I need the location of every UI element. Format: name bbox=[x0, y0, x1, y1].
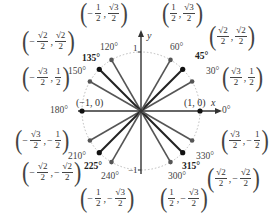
point-225-dot bbox=[97, 150, 102, 155]
angle-225-label: 225° bbox=[84, 162, 102, 172]
angle-135-label: 135° bbox=[82, 54, 100, 64]
angle-330-label: 330° bbox=[196, 152, 214, 162]
y-bottom-tick-label: −1 bbox=[128, 166, 138, 175]
point-neg1-0-label: (−1, 0) bbox=[76, 98, 103, 108]
y-top-tick-label: 1 bbox=[133, 44, 138, 53]
coord-45-label: (√22,√22) bbox=[209, 25, 255, 47]
x-axis-arrow-icon bbox=[215, 108, 222, 114]
coord-315-label: (√22,−√22) bbox=[207, 167, 260, 189]
angle-120-label: 120° bbox=[100, 43, 118, 53]
angle-0-label: 0° bbox=[222, 106, 231, 116]
coord-330-label: (√32,−12) bbox=[221, 129, 269, 151]
point-45-dot bbox=[180, 67, 185, 72]
coord-135-label: (−√22,√22) bbox=[22, 30, 75, 52]
coord-240-label: (−12,−√32) bbox=[80, 187, 134, 209]
coord-150-label: (−√32,12) bbox=[22, 66, 70, 88]
point-60-dot bbox=[168, 58, 173, 63]
point-300-dot bbox=[168, 160, 173, 165]
coord-120-label: (−12,√32) bbox=[80, 2, 128, 24]
coord-300-label: (12,−√32) bbox=[160, 187, 208, 209]
point-1-0-dot bbox=[197, 108, 202, 113]
angle-30-label: 30° bbox=[206, 67, 219, 77]
coord-30-label: (√32,12) bbox=[222, 66, 263, 88]
point-210-dot bbox=[88, 138, 93, 143]
point-150-dot bbox=[88, 79, 93, 84]
point-330-dot bbox=[190, 138, 195, 143]
angle-150-label: 150° bbox=[68, 67, 86, 77]
coord-60-label: (12,√32) bbox=[162, 2, 203, 24]
coord-225-label: (−√22,−√22) bbox=[22, 161, 81, 183]
x-axis-label: x bbox=[211, 98, 215, 108]
angle-60-label: 60° bbox=[170, 43, 183, 53]
angle-180-label: 180° bbox=[50, 106, 68, 116]
point-30-dot bbox=[190, 79, 195, 84]
point-120-dot bbox=[109, 58, 114, 63]
y-axis-label: y bbox=[147, 31, 151, 41]
angle-240-label: 240° bbox=[101, 172, 119, 182]
point-315-dot bbox=[180, 150, 185, 155]
coord-210-label: (−√32,−12) bbox=[15, 129, 69, 151]
point-1-0-label: (1, 0) bbox=[184, 98, 206, 108]
point-neg1-0-dot bbox=[79, 108, 84, 113]
point-240-dot bbox=[109, 160, 114, 165]
y-axis-arrow-icon bbox=[138, 30, 144, 37]
angle-315-label: 315° bbox=[182, 162, 200, 172]
angle-45-label: 45° bbox=[195, 52, 208, 62]
angle-300-label: 300° bbox=[168, 172, 186, 182]
point-135-dot bbox=[97, 67, 102, 72]
